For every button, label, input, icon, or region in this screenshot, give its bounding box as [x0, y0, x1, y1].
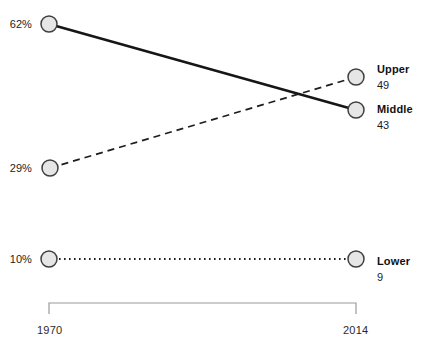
x-axis-label-start: 1970 [37, 325, 62, 336]
marker-middle-2014[interactable] [348, 102, 364, 118]
series-label-lower: Lower 9 [377, 256, 410, 283]
marker-lower-1970[interactable] [41, 251, 57, 267]
x-axis-bracket [49, 303, 356, 314]
series-label-middle-value: 43 [377, 120, 413, 131]
value-label-middle-1970: 62% [2, 19, 32, 30]
series-label-middle: Middle 43 [377, 104, 413, 131]
series-label-middle-name: Middle [377, 104, 413, 115]
slopegraph-plot-area [0, 0, 428, 351]
value-label-lower-1970: 10% [2, 254, 32, 265]
series-line-upper [50, 77, 356, 168]
series-label-upper-value: 49 [377, 80, 410, 91]
series-line-middle [49, 24, 356, 110]
marker-upper-1970[interactable] [42, 160, 58, 176]
marker-lower-2014[interactable] [348, 251, 364, 267]
series-label-lower-name: Lower [377, 256, 410, 267]
series-label-lower-value: 9 [377, 272, 410, 283]
series-label-upper: Upper 49 [377, 64, 410, 91]
marker-middle-1970[interactable] [41, 16, 57, 32]
slopegraph-chart: 62% 29% 10% Upper 49 Middle 43 Lower 9 1… [0, 0, 428, 351]
marker-upper-2014[interactable] [348, 69, 364, 85]
value-label-upper-1970: 29% [2, 163, 32, 174]
x-axis-label-end: 2014 [343, 325, 368, 336]
series-label-upper-name: Upper [377, 64, 410, 75]
